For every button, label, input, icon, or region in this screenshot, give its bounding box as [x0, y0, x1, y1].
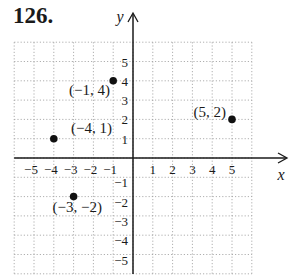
- x-tick-label: 4: [209, 162, 216, 177]
- y-tick-label: 2: [122, 112, 129, 127]
- y-tick-label: 3: [122, 93, 129, 108]
- y-tick-label: 4: [122, 74, 129, 89]
- x-tick-label: −3: [64, 162, 78, 177]
- x-tick-label: 5: [229, 162, 236, 177]
- x-tick-label: 1: [150, 162, 157, 177]
- y-tick-label: 1: [122, 132, 129, 147]
- y-tick-label: 5: [122, 55, 129, 70]
- x-tick-label: −5: [24, 162, 38, 177]
- y-tick-label: −3: [114, 214, 128, 229]
- point-label: (−4, 1): [71, 120, 112, 137]
- y-tick-label: −1: [114, 175, 128, 190]
- point-label: (−1, 4): [69, 82, 110, 99]
- coordinate-plane: xy−5−4−3−2−112345−5−4−3−2−112345(−1, 4)(…: [0, 0, 296, 280]
- point-label: (5, 2): [194, 104, 227, 121]
- y-tick-label: −5: [114, 253, 128, 268]
- x-tick-label: −2: [83, 162, 97, 177]
- data-point: [50, 135, 58, 143]
- x-tick-label: 2: [169, 162, 176, 177]
- point-label: (−3, −2): [53, 199, 102, 216]
- data-point: [228, 116, 236, 124]
- x-axis-label: x: [276, 166, 284, 183]
- y-tick-label: −2: [114, 195, 128, 210]
- x-tick-label: 3: [189, 162, 196, 177]
- y-tick-label: −4: [114, 233, 128, 248]
- x-tick-label: −4: [44, 162, 58, 177]
- y-axis-label: y: [114, 8, 124, 26]
- data-point: [109, 77, 117, 85]
